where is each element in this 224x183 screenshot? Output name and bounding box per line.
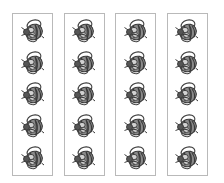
counting-worksheet [12, 13, 208, 174]
bee-icon [70, 49, 98, 77]
bee-icon [70, 17, 98, 45]
bee-icon [70, 144, 98, 172]
bee-icon [122, 49, 150, 77]
bee-icon [19, 80, 47, 108]
panel-4 [167, 13, 208, 176]
bee-icon [70, 80, 98, 108]
bee-icon [19, 112, 47, 140]
bee-icon [173, 144, 201, 172]
bee-icon [122, 144, 150, 172]
panel-2 [64, 13, 105, 176]
bee-icon [173, 80, 201, 108]
bee-icon [19, 144, 47, 172]
panel-3 [115, 13, 156, 176]
bee-icon [122, 80, 150, 108]
panel-1 [12, 13, 53, 176]
bee-icon [122, 112, 150, 140]
bee-icon [173, 17, 201, 45]
bee-icon [122, 17, 150, 45]
bee-icon [173, 112, 201, 140]
bee-icon [19, 49, 47, 77]
bee-icon [173, 49, 201, 77]
bee-icon [19, 17, 47, 45]
bee-icon [70, 112, 98, 140]
